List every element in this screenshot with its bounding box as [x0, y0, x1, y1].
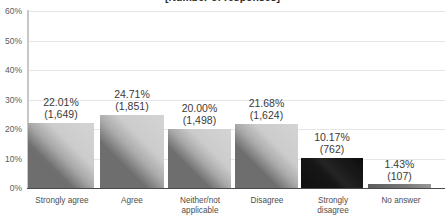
- data-label-count: (762): [301, 144, 363, 156]
- data-label-disagree: 21.68% (1,624): [235, 98, 298, 121]
- y-tick-50: 50%: [0, 36, 22, 46]
- bar-strongly-disagree[interactable]: [301, 158, 363, 188]
- x-label-line1: Disagree: [251, 196, 284, 205]
- bar-neither-not-applicable[interactable]: [168, 129, 231, 188]
- x-label-agree: Agree: [98, 196, 166, 206]
- bar-strongly-agree[interactable]: [28, 123, 94, 188]
- x-label-strongly-disagree: Strongly disagree: [299, 196, 367, 215]
- y-tick-20: 20%: [0, 124, 22, 134]
- x-label-line1: No answer: [381, 196, 420, 205]
- bar-fill: [368, 184, 431, 188]
- x-label-line1: Strongly: [318, 196, 348, 205]
- bar-fill: [235, 124, 298, 188]
- x-label-neither-not-applicable: Neither/not applicable: [165, 196, 235, 215]
- x-label-no-answer: No answer: [366, 196, 436, 206]
- x-label-disagree: Disagree: [233, 196, 301, 206]
- y-tick-40: 40%: [0, 65, 22, 75]
- data-label-agree: 24.71% (1,851): [100, 89, 164, 112]
- data-label-percent: 1.43%: [368, 159, 431, 171]
- bar-chart: [Number of responses] 60% 50% 40% 30% 20…: [0, 0, 445, 219]
- data-label-percent: 10.17%: [301, 132, 363, 144]
- data-label-percent: 21.68%: [235, 98, 298, 110]
- data-label-percent: 20.00%: [168, 103, 231, 115]
- bar-no-answer[interactable]: [368, 184, 431, 188]
- data-label-percent: 24.71%: [100, 89, 164, 101]
- bar-agree[interactable]: [100, 115, 164, 188]
- bar-fill: [28, 123, 94, 188]
- x-label-strongly-agree: Strongly agree: [24, 196, 100, 206]
- bar-fill: [168, 129, 231, 188]
- x-label-line1: Agree: [121, 196, 143, 205]
- data-label-percent: 22.01%: [28, 97, 94, 109]
- data-label-no-answer: 1.43% (107): [368, 159, 431, 182]
- y-tick-0: 0%: [0, 183, 22, 193]
- bar-fill: [301, 158, 363, 188]
- y-tick-10: 10%: [0, 154, 22, 164]
- data-label-strongly-disagree: 10.17% (762): [301, 132, 363, 155]
- x-label-line2: applicable: [182, 206, 219, 215]
- y-tick-60: 60%: [0, 6, 22, 16]
- data-label-count: (107): [368, 171, 431, 183]
- data-label-count: (1,498): [168, 115, 231, 127]
- data-label-count: (1,649): [28, 109, 94, 121]
- y-tick-30: 30%: [0, 95, 22, 105]
- bar-disagree[interactable]: [235, 124, 298, 188]
- x-label-line2: disagree: [317, 206, 348, 215]
- bar-fill: [100, 115, 164, 188]
- data-label-neither-not-applicable: 20.00% (1,498): [168, 103, 231, 126]
- x-label-line1: Neither/not: [180, 196, 220, 205]
- data-label-strongly-agree: 22.01% (1,649): [28, 97, 94, 120]
- x-label-line1: Strongly agree: [35, 196, 88, 205]
- data-label-count: (1,851): [100, 101, 164, 113]
- data-label-count: (1,624): [235, 110, 298, 122]
